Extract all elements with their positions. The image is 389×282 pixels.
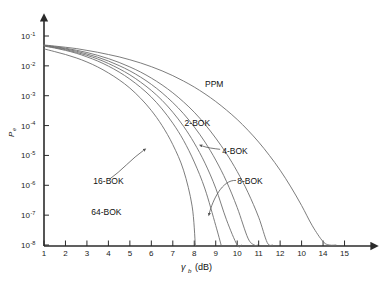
x-tick-label-13: 14 [319,249,328,258]
y-tick-label-3: 10-4 [21,120,35,130]
x-tick-label-5: 6 [149,249,154,258]
annotation-label-4-bok: 4-BOK [222,146,248,156]
curve-ppm [44,45,336,245]
x-tick-label-8: 9 [214,249,219,258]
x-axis-title-symbol: γ [181,262,186,272]
x-axis-title-subscript: b [188,267,192,274]
y-tick-mantissa-2: 10 [21,92,30,101]
y-tick-label-7: 10-8 [21,240,35,250]
y-tick-label-4: 10-5 [21,150,35,160]
y-tick-label-5: 10-6 [21,180,35,190]
x-tick-labels: 123456789101112101415 [42,249,350,258]
x-tick-label-9: 10 [233,249,242,258]
x-tick-label-4: 5 [128,249,133,258]
y-axis-title-subscript: e [11,128,17,131]
leader-16-bok [109,150,143,179]
curve-8-bok [44,46,241,247]
x-tick-label-7: 8 [192,249,197,258]
x-tick-marks [44,241,345,247]
curve-16-bok [44,46,221,245]
y-tick-exponent-7: -8 [31,240,36,246]
y-tick-mantissa-4: 10 [21,151,30,160]
y-tick-label-0: 10-1 [21,31,35,41]
y-tick-exponent-6: -7 [31,210,36,216]
y-axis-title: P e [7,128,17,137]
y-tick-mantissa-3: 10 [21,122,30,131]
annotation-label-16-bok: 16-BOK [93,176,124,186]
plot-canvas: 123456789101112101415 10-110-210-310-410… [0,0,389,282]
leader-4-bok [202,146,220,150]
x-tick-label-14: 15 [340,249,349,258]
x-tick-label-3: 4 [106,249,111,258]
y-tick-label-2: 10-3 [21,91,35,101]
y-tick-exponent-2: -3 [31,91,36,97]
data-curves [44,45,336,247]
x-tick-label-1: 2 [63,249,68,258]
y-tick-exponent-4: -5 [31,150,36,156]
annotation-label-8-bok: 8-BOK [237,176,263,186]
annotation-label-64-bok: 64-BOK [91,207,122,217]
annotation-leaders [109,146,236,214]
chart-figure: 123456789101112101415 10-110-210-310-410… [0,0,389,282]
y-tick-mantissa-5: 10 [21,181,30,190]
x-tick-label-0: 1 [42,249,47,258]
x-axis-title: γ b (dB) [181,262,212,274]
y-tick-mantissa-6: 10 [21,211,30,220]
y-tick-mantissa-7: 10 [21,241,30,250]
x-axis-title-unit: (dB) [195,262,212,272]
y-tick-labels: 10-110-210-310-410-510-610-710-8 [21,31,35,250]
y-tick-exponent-1: -2 [31,61,36,67]
annotation-label-ppm: PPM [205,79,223,89]
y-tick-label-1: 10-2 [21,61,35,71]
x-tick-label-11: 12 [276,249,285,258]
y-tick-mantissa-0: 10 [21,32,30,41]
x-tick-label-2: 3 [85,249,90,258]
y-tick-exponent-5: -6 [31,180,36,186]
y-tick-label-6: 10-7 [21,210,35,220]
x-tick-label-6: 7 [171,249,176,258]
x-tick-label-10: 11 [255,249,264,258]
y-tick-exponent-3: -4 [31,120,36,126]
x-tick-label-12: 10 [297,249,306,258]
annotation-label-2-bok: 2-BOK [185,118,211,128]
y-tick-mantissa-1: 10 [21,62,30,71]
y-tick-exponent-0: -1 [31,31,36,37]
curve-labels: PPM2-BOK4-BOK8-BOK16-BOK64-BOK [91,79,263,217]
